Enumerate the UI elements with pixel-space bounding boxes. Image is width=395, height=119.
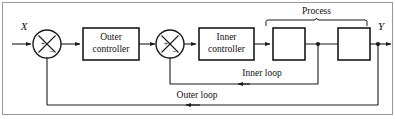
process-brace-label: Process <box>302 6 331 16</box>
process-brace <box>266 18 367 26</box>
diagram-canvas: + − Outer controller + − Inner controlle… <box>0 0 395 119</box>
outer-controller-label-line2: controller <box>93 44 131 54</box>
process-block-2 <box>338 28 370 60</box>
outer-loop-label: Outer loop <box>177 90 218 100</box>
junction1-plus-sign: + <box>41 39 46 48</box>
process-block-1 <box>273 28 305 60</box>
inner-controller-label-line2: controller <box>208 44 246 54</box>
output-signal-label: Y <box>378 20 386 32</box>
junction1-minus-sign: − <box>49 47 54 56</box>
outer-controller-label-line1: Outer <box>100 32 122 42</box>
junction2-minus-sign: − <box>172 47 177 56</box>
input-signal-label: X <box>20 20 29 32</box>
inner-controller-label-line1: Inner <box>216 32 237 42</box>
junction2-plus-sign: + <box>164 39 169 48</box>
cascade-control-diagram: + − Outer controller + − Inner controlle… <box>0 0 395 119</box>
inner-loop-label: Inner loop <box>242 68 282 78</box>
